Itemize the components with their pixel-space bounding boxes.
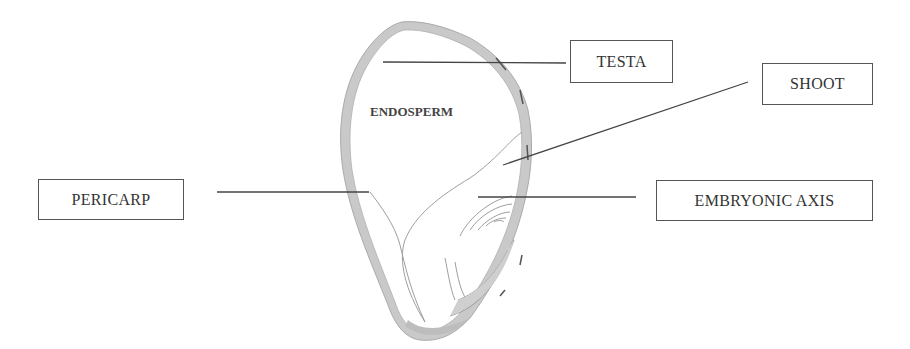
label-pericarp: PERICARP xyxy=(38,179,184,220)
endosperm-label: ENDOSPERM xyxy=(370,104,453,120)
leader-shoot xyxy=(503,82,748,165)
seed-diagram xyxy=(0,0,910,349)
label-shoot: SHOOT xyxy=(762,63,873,105)
label-embryonic-axis: EMBRYONIC AXIS xyxy=(656,180,873,221)
label-testa: TESTA xyxy=(570,40,673,83)
